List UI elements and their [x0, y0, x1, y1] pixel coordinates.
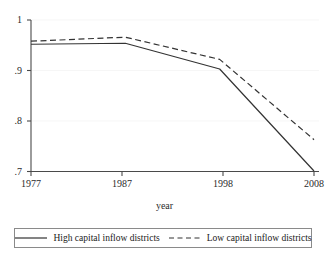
legend-dashed-line-icon: [168, 234, 202, 242]
y-tick-label-09: .9: [0, 65, 22, 76]
x-tick-label-1987: 1987: [102, 178, 142, 189]
legend-label-high-capital-inflow: High capital inflow districts: [53, 233, 159, 243]
y-tick-label-08: .8: [0, 115, 22, 126]
x-axis-ticks: [31, 172, 314, 177]
chart-legend: High capital inflow districts Low capita…: [14, 228, 312, 248]
y-axis-ticks: [27, 20, 31, 172]
y-tick-label-1: 1: [0, 14, 22, 25]
x-tick-label-2008: 2008: [294, 178, 329, 189]
legend-entry-low-capital-inflow: Low capital inflow districts: [168, 233, 312, 243]
plot-background: [31, 14, 319, 172]
x-axis-title: year: [0, 200, 329, 212]
y-tick-label-07: .7: [0, 166, 22, 177]
chart-figure: 1 .9 .8 .7 1977 1987 1998 2008 year High…: [0, 0, 329, 260]
x-tick-label-1977: 1977: [11, 178, 51, 189]
legend-solid-line-icon: [14, 234, 48, 242]
legend-entry-high-capital-inflow: High capital inflow districts: [14, 233, 159, 243]
legend-label-low-capital-inflow: Low capital inflow districts: [207, 233, 312, 243]
line-chart-plot-area: [0, 0, 329, 260]
x-tick-label-1998: 1998: [203, 178, 243, 189]
